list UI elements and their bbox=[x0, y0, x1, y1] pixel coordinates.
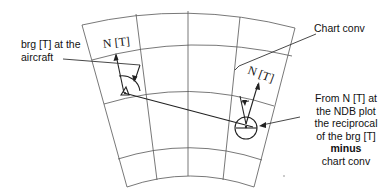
aircraft-bearing-label-line-2: aircraft bbox=[21, 51, 81, 64]
aircraft-north-line bbox=[116, 55, 124, 93]
parallel-bottom bbox=[127, 176, 254, 187]
ndb-instruction-leader bbox=[262, 117, 300, 125]
ndb-north-line bbox=[246, 84, 258, 124]
ndb-north-arrowhead bbox=[255, 82, 260, 90]
stray-dot bbox=[283, 175, 285, 177]
parallel-top bbox=[82, 13, 295, 28]
ndb-conv-arrowhead bbox=[242, 100, 247, 106]
ndb-dot bbox=[245, 126, 247, 128]
aircraft-north-label: N [T] bbox=[102, 34, 130, 51]
aircraft-bearing-label: brg [T] at the aircraft bbox=[21, 38, 81, 63]
ndb-instruction-line-2: the NDB plot bbox=[304, 105, 388, 118]
parallel-4 bbox=[118, 148, 262, 160]
meridian-4 bbox=[223, 17, 240, 180]
ndb-instruction-line-4: of the brg [T] bbox=[304, 130, 388, 143]
aircraft-bearing-label-line-1: brg [T] at the bbox=[21, 38, 81, 51]
ndb-north-label: N [T] bbox=[246, 63, 276, 85]
chart-conv-leader bbox=[235, 34, 316, 70]
position-line bbox=[124, 93, 253, 127]
meridian-right-edge bbox=[254, 28, 295, 187]
ndb-instruction-line-1: From N [T] at bbox=[304, 92, 388, 105]
ndb-instruction-line-3: the reciprocal bbox=[304, 117, 388, 130]
ndb-instruction-tail: chart conv bbox=[304, 155, 388, 168]
parallel-3 bbox=[104, 91, 274, 106]
ndb-instruction-label: From N [T] at the NDB plot the reciproca… bbox=[304, 92, 388, 167]
ndb-instruction-arrowhead bbox=[259, 122, 266, 128]
chart-conv-label: Chart conv bbox=[314, 22, 365, 35]
ndb-instruction-minus: minus bbox=[304, 142, 388, 155]
